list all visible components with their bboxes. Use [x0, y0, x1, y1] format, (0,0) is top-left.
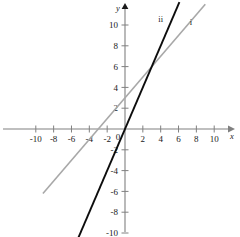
line-i	[43, 4, 205, 193]
x-tick-label--2: -2	[103, 134, 111, 144]
x-tick-label-8: 8	[194, 134, 199, 144]
y-axis-label: y	[115, 3, 120, 13]
y-tick-label--10: -10	[106, 228, 118, 237]
line-label-ii: ii	[158, 14, 163, 24]
coordinate-plane-svg: -10-8-6-4-2246810 108642-2-4-6-8-10 0 x …	[0, 0, 240, 237]
x-tick-label-6: 6	[176, 134, 181, 144]
plotted-lines	[43, 2, 205, 237]
x-tick-label--8: -8	[50, 134, 58, 144]
x-axis-label: x	[229, 131, 234, 141]
x-tick-label--10: -10	[30, 134, 42, 144]
x-tick-label-2: 2	[141, 134, 146, 144]
x-tick-label-10: 10	[210, 134, 220, 144]
x-tick-label--6: -6	[68, 134, 76, 144]
y-tick-label--4: -4	[111, 166, 119, 176]
y-tick-label-10: 10	[109, 20, 119, 30]
y-tick-label--8: -8	[111, 207, 119, 217]
y-tick-label-8: 8	[114, 41, 119, 51]
y-axis-arrow-icon	[122, 3, 129, 9]
y-tick-label--6: -6	[111, 187, 119, 197]
y-tick-label-6: 6	[114, 62, 119, 72]
x-tick-label-4: 4	[158, 134, 163, 144]
line-ii	[75, 2, 179, 237]
line-graph-figure: -10-8-6-4-2246810 108642-2-4-6-8-10 0 x …	[0, 0, 240, 237]
y-tick-label-4: 4	[114, 83, 119, 93]
